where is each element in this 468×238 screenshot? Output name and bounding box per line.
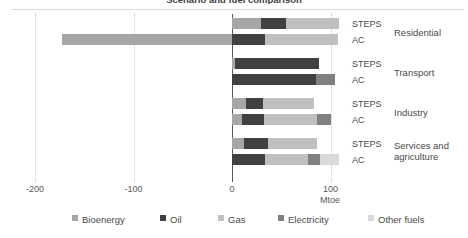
bar-segment-gas[interactable]	[265, 34, 339, 45]
scenario-label-steps: STEPS	[352, 19, 382, 30]
plot-area	[0, 14, 360, 182]
bar-row[interactable]	[0, 98, 360, 109]
scenario-label-ac: AC	[352, 155, 365, 166]
bar-segment-oil[interactable]	[246, 98, 263, 109]
scenario-label-steps: STEPS	[352, 59, 382, 70]
x-tick--200: -200	[5, 184, 65, 195]
scenario-label-ac: AC	[352, 115, 365, 126]
chart-legend: BioenergyOilGasElectricityOther fuels	[0, 213, 468, 235]
legend-item-oil[interactable]: Oil	[160, 213, 182, 225]
category-label: Residential	[394, 27, 468, 38]
legend-label: Oil	[170, 214, 182, 225]
legend-swatch-icon	[218, 215, 224, 221]
bar-row[interactable]	[0, 74, 360, 85]
scenario-label-ac: AC	[352, 35, 365, 46]
bar-segment-other-fuels[interactable]	[320, 154, 340, 165]
x-tick--100: -100	[104, 184, 164, 195]
scenario-label-steps: STEPS	[352, 139, 382, 150]
x-tick-0: 0	[202, 184, 262, 195]
legend-item-bioenergy[interactable]: Bioenergy	[72, 213, 125, 225]
bar-segment-oil[interactable]	[232, 74, 316, 85]
x-axis-unit-label: Mtoe	[300, 195, 360, 205]
bar-segment-electricity[interactable]	[317, 114, 332, 125]
bar-segment-gas[interactable]	[268, 138, 316, 149]
bar-row[interactable]	[0, 18, 360, 29]
category-label: Industry	[394, 107, 468, 118]
bar-segment-gas[interactable]	[286, 18, 339, 29]
legend-swatch-icon	[72, 215, 78, 221]
bar-segment-bioenergy[interactable]	[232, 98, 246, 109]
bar-segment-oil[interactable]	[235, 58, 319, 69]
title-divider	[12, 9, 464, 10]
bar-row[interactable]	[0, 114, 360, 125]
bar-segment-oil[interactable]	[242, 114, 264, 125]
legend-swatch-icon	[160, 215, 166, 221]
bar-segment-electricity[interactable]	[316, 74, 336, 85]
bar-segment-oil[interactable]	[232, 34, 265, 45]
scenario-label-steps: STEPS	[352, 99, 382, 110]
legend-swatch-icon	[368, 215, 374, 221]
bar-segment-gas[interactable]	[263, 98, 314, 109]
legend-label: Other fuels	[378, 214, 424, 225]
bar-segment-oil[interactable]	[232, 154, 265, 165]
bar-row[interactable]	[0, 154, 360, 165]
category-label: Transport	[394, 67, 468, 78]
bar-row[interactable]	[0, 58, 360, 69]
bar-segment-bioenergy[interactable]	[232, 138, 244, 149]
legend-item-other-fuels[interactable]: Other fuels	[368, 213, 424, 225]
category-label: Services andagriculture	[394, 140, 468, 162]
bar-segment-gas[interactable]	[264, 114, 317, 125]
legend-item-gas[interactable]: Gas	[218, 213, 245, 225]
bar-segment-bioenergy[interactable]	[232, 114, 242, 125]
bar-segment-bioenergy[interactable]	[232, 18, 261, 29]
legend-label: Electricity	[288, 214, 329, 225]
chart-title: Scenario and fuel comparison	[0, 0, 468, 4]
bar-segment-bioenergy[interactable]	[62, 34, 232, 45]
legend-label: Bioenergy	[82, 214, 125, 225]
bar-segment-oil[interactable]	[261, 18, 287, 29]
bar-row[interactable]	[0, 34, 360, 45]
legend-swatch-icon	[278, 215, 284, 221]
bar-segment-electricity[interactable]	[308, 154, 320, 165]
legend-item-electricity[interactable]: Electricity	[278, 213, 329, 225]
x-tick-100: 100	[301, 184, 361, 195]
scenario-label-ac: AC	[352, 75, 365, 86]
legend-label: Gas	[228, 214, 245, 225]
chart-container: Scenario and fuel comparison -200-100010…	[0, 0, 468, 238]
bar-row[interactable]	[0, 138, 360, 149]
bar-segment-oil[interactable]	[244, 138, 269, 149]
bar-segment-gas[interactable]	[265, 154, 307, 165]
